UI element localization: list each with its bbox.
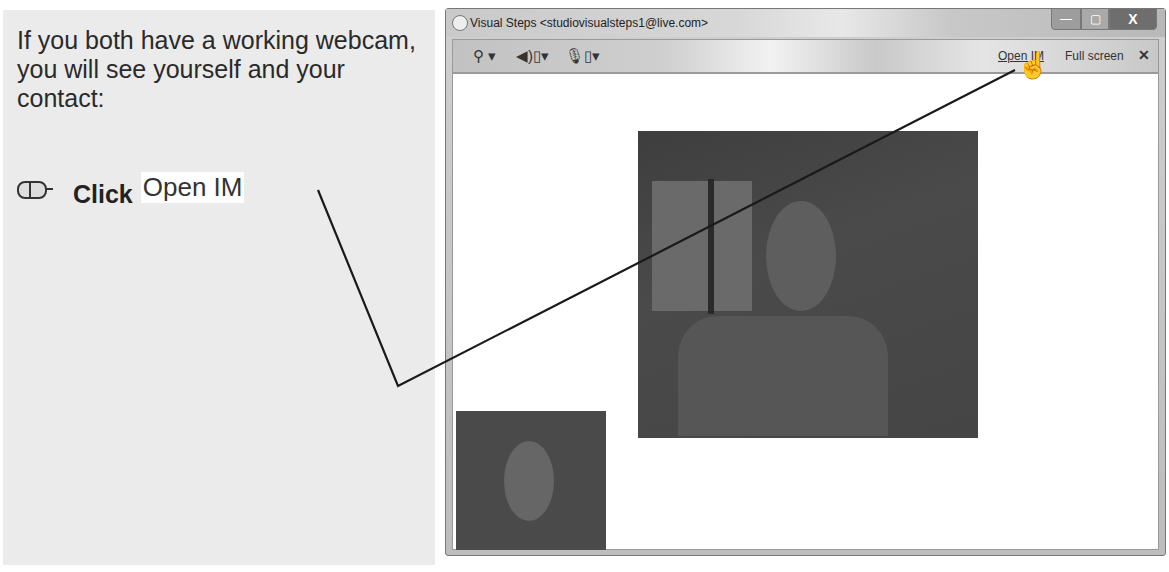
callout-line xyxy=(0,0,1169,572)
